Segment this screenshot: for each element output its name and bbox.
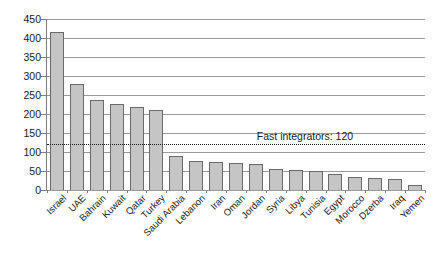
bar-chart-figure: Fast integrators: 120 050100150200250300…	[0, 0, 432, 273]
x-tick-label-yemen: Yemen	[0, 193, 419, 203]
bar-tunisia	[309, 171, 323, 190]
bar-iran	[209, 162, 223, 190]
gridline-400	[47, 38, 425, 39]
bar-oman	[229, 163, 243, 190]
bar-uae	[70, 84, 84, 190]
bar-israel	[50, 32, 64, 190]
bar-syria	[269, 169, 283, 190]
bar-bahrain	[90, 100, 104, 190]
y-tick-label-400: 400	[6, 32, 41, 44]
y-tick-label-450: 450	[6, 13, 41, 25]
bar-yemen	[408, 185, 422, 190]
gridline-0	[47, 190, 425, 191]
y-tick-label-200: 200	[6, 108, 41, 120]
bar-lebanon	[189, 161, 203, 190]
threshold-label: Fast integrators: 120	[225, 130, 385, 142]
bar-turkey	[149, 110, 163, 190]
y-axis-line	[46, 19, 47, 191]
y-tick-label-100: 100	[6, 146, 41, 158]
gridline-350	[47, 57, 425, 58]
bar-morocco	[348, 177, 362, 190]
gridline-450	[47, 19, 425, 20]
y-tick-label-150: 150	[6, 127, 41, 139]
bar-egypt	[328, 174, 342, 190]
bar-kuwait	[110, 104, 124, 190]
gridline-300	[47, 76, 425, 77]
bar-jordan	[249, 164, 263, 190]
y-tick-label-50: 50	[6, 165, 41, 177]
y-tick-label-350: 350	[6, 51, 41, 63]
threshold-line	[47, 144, 425, 145]
gridline-250	[47, 95, 425, 96]
y-tick-label-250: 250	[6, 89, 41, 101]
bar-dzerba	[368, 178, 382, 190]
bar-qatar	[130, 107, 144, 190]
bar-saudi-arabia	[169, 156, 183, 190]
bar-libya	[289, 170, 303, 190]
x-axis-tick	[425, 190, 426, 193]
y-tick-label-300: 300	[6, 70, 41, 82]
plot-area: Fast integrators: 120	[47, 19, 425, 190]
x-tick-label-text: Yemen	[398, 193, 426, 221]
bar-iraq	[388, 179, 402, 190]
